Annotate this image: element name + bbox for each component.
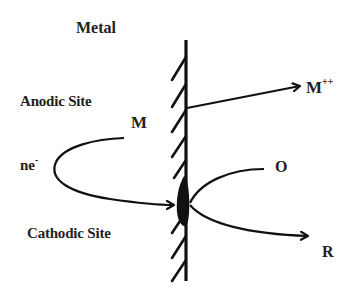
metal-ion-base: M xyxy=(306,78,322,97)
metal-wall xyxy=(172,40,186,281)
diagram-graphics xyxy=(0,0,361,288)
metal-ion-label: M++ xyxy=(306,79,333,96)
metal-hatching xyxy=(172,57,186,281)
electrons-label: ne- xyxy=(20,158,38,173)
metal-ion-arrow xyxy=(187,86,300,108)
corrosion-diagram: Metal Anodic Site M M++ ne- Cathodic Sit… xyxy=(0,0,361,288)
anodic-site-label: Anodic Site xyxy=(20,94,92,109)
electron-flow-arrow xyxy=(54,138,174,205)
metal-atom-label: M xyxy=(131,114,147,131)
reduction-arrow xyxy=(190,205,308,236)
cathodic-site-blob xyxy=(177,176,190,226)
reduced-label: R xyxy=(322,244,334,260)
oxidant-label: O xyxy=(275,159,287,175)
metal-ion-charge: ++ xyxy=(322,76,333,87)
electrons-base: ne xyxy=(20,157,35,173)
metal-label: Metal xyxy=(76,20,116,36)
oxidant-curve xyxy=(190,169,264,203)
electrons-charge: - xyxy=(35,154,38,165)
cathodic-site-label: Cathodic Site xyxy=(27,226,111,241)
